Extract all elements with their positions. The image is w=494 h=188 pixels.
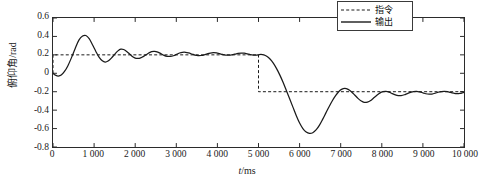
x-tick-label: 9 000 [413, 150, 434, 160]
plot-area [52, 17, 465, 148]
y-tick-label: 0.2 [37, 50, 49, 60]
x-axis-title: t/ms [0, 166, 494, 176]
x-tick-label: 10 000 [452, 150, 478, 160]
series-line-command [53, 55, 464, 92]
dashed-line-icon [341, 6, 371, 14]
x-tick-label: 3 000 [165, 150, 186, 160]
legend-entry-command: 指令 [341, 4, 408, 16]
x-tick-label: 7 000 [330, 150, 351, 160]
y-tick-label: -0.8 [34, 143, 49, 153]
y-tick-label: 0 [44, 68, 49, 78]
legend-entry-output: 输出 [341, 16, 408, 28]
y-axis-title: 俯仰角/rad [8, 23, 18, 107]
x-tick-label: 6 000 [289, 150, 310, 160]
y-tick-label: -0.2 [34, 87, 49, 97]
plot-canvas [53, 18, 464, 147]
y-tick-label: -0.4 [34, 106, 49, 116]
x-tick-label: 8 000 [372, 150, 393, 160]
x-tick-label: 1 000 [83, 150, 104, 160]
pitch-angle-step-response-figure: 0.60.40.20-0.2-0.4-0.6-0.8 俯仰角/rad 01 00… [0, 0, 494, 188]
y-tick-label: -0.6 [34, 125, 49, 135]
solid-line-icon [341, 18, 371, 26]
series-line-output [53, 35, 464, 133]
legend-label-command: 指令 [375, 6, 393, 15]
legend-label-output: 输出 [375, 18, 393, 27]
y-tick-label: 0.4 [37, 31, 49, 41]
x-tick-label: 0 [50, 150, 55, 160]
x-tick-label: 5 000 [248, 150, 269, 160]
y-tick-label: 0.6 [37, 12, 49, 22]
x-tick-label: 2 000 [124, 150, 145, 160]
x-tick-label: 4 000 [207, 150, 228, 160]
legend: 指令 输出 [337, 1, 413, 31]
